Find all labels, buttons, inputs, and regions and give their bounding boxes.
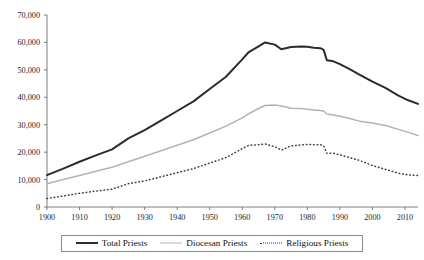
svg-text:10,000: 10,000: [17, 176, 40, 185]
svg-text:2000: 2000: [364, 213, 380, 222]
svg-text:1920: 1920: [104, 213, 120, 222]
legend-label-religious-priests: Religious Priests: [286, 239, 348, 248]
svg-text:1980: 1980: [299, 213, 315, 222]
legend-swatch-total-priests: [76, 240, 98, 247]
svg-text:60,000: 60,000: [17, 38, 40, 47]
x-axis-tick-labels: 1900191019201930194019501960197019801990…: [39, 213, 413, 222]
y-axis-tick-labels: 010,00020,00030,00040,00050,00060,00070,…: [17, 11, 40, 212]
svg-text:1990: 1990: [332, 213, 348, 222]
svg-text:30,000: 30,000: [17, 121, 40, 130]
legend-label-total-priests: Total Priests: [102, 239, 148, 248]
svg-text:1960: 1960: [234, 213, 250, 222]
svg-text:40,000: 40,000: [17, 93, 40, 102]
svg-text:1940: 1940: [169, 213, 185, 222]
line-chart: 010,00020,00030,00040,00050,00060,00070,…: [0, 0, 424, 260]
legend-label-diocesan-priests: Diocesan Priests: [186, 239, 247, 248]
series-line-total-priests: [47, 42, 418, 175]
chart-legend: Total Priests Diocesan Priests Religious…: [61, 235, 363, 252]
svg-text:0: 0: [36, 203, 40, 212]
legend-item-diocesan-priests: Diocesan Priests: [160, 239, 247, 248]
svg-text:1930: 1930: [136, 213, 152, 222]
svg-text:50,000: 50,000: [17, 66, 40, 75]
legend-item-religious-priests: Religious Priests: [260, 239, 348, 248]
svg-text:1950: 1950: [202, 213, 218, 222]
svg-text:2010: 2010: [397, 213, 413, 222]
svg-text:20,000: 20,000: [17, 148, 40, 157]
svg-text:70,000: 70,000: [17, 11, 40, 20]
legend-swatch-religious-priests: [260, 240, 282, 247]
chart-plot-area: 010,00020,00030,00040,00050,00060,00070,…: [0, 0, 424, 260]
svg-text:1900: 1900: [39, 213, 55, 222]
svg-text:1910: 1910: [71, 213, 87, 222]
legend-swatch-diocesan-priests: [160, 240, 182, 247]
legend-item-total-priests: Total Priests: [76, 239, 148, 248]
svg-text:1970: 1970: [267, 213, 283, 222]
series-line-diocesan-priests: [47, 105, 418, 184]
